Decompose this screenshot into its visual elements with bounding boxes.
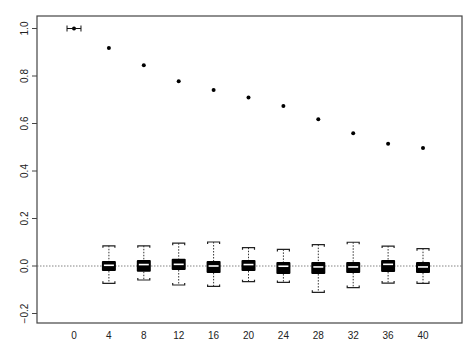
- data-point: [316, 117, 320, 121]
- y-axis: 1.00.80.60.40.20.0−0.2: [19, 21, 37, 323]
- boxplot: [207, 242, 221, 286]
- boxplot: [276, 249, 290, 282]
- data-point: [421, 146, 425, 150]
- box: [137, 260, 151, 272]
- y-tick-label: 1.0: [19, 21, 30, 35]
- y-tick-label: 0.0: [19, 259, 30, 273]
- data-point: [107, 46, 111, 50]
- boxplot: [102, 246, 116, 284]
- x-tick-label: 0: [71, 330, 77, 341]
- data-point: [142, 63, 146, 67]
- x-tick-label: 36: [383, 330, 395, 341]
- lower-cap: [312, 290, 324, 292]
- boxplot: [346, 242, 360, 287]
- x-tick-label: 40: [417, 330, 429, 341]
- box: [207, 261, 221, 273]
- x-axis: 0481216202428323640: [71, 330, 429, 341]
- y-tick-label: 0.4: [19, 164, 30, 178]
- data-point: [281, 104, 285, 108]
- boxplot: [137, 246, 151, 280]
- data-point: [386, 142, 390, 146]
- y-tick-label: 0.8: [19, 69, 30, 83]
- x-tick-label: 16: [208, 330, 220, 341]
- box: [381, 260, 395, 272]
- x-tick-label: 8: [141, 330, 147, 341]
- data-point: [177, 79, 181, 83]
- chart: 1.00.80.60.40.20.0−0.2 04812162024283236…: [0, 0, 476, 351]
- boxplot: [242, 248, 256, 282]
- x-tick-label: 12: [173, 330, 185, 341]
- y-tick-label: −0.2: [19, 303, 30, 323]
- boxplot: [172, 243, 186, 285]
- plot-frame: [37, 16, 462, 323]
- boxplot: [416, 249, 430, 284]
- x-tick-label: 20: [243, 330, 255, 341]
- data-point: [212, 88, 216, 92]
- boxplot-series: [102, 242, 430, 292]
- y-tick-label: 0.6: [19, 116, 30, 130]
- boxplot: [381, 246, 395, 283]
- box: [311, 262, 325, 274]
- boxplot: [311, 245, 325, 293]
- lower-cap: [103, 281, 115, 283]
- box: [276, 262, 290, 274]
- y-tick-label: 0.2: [19, 211, 30, 225]
- data-point: [247, 95, 251, 99]
- x-tick-label: 28: [313, 330, 325, 341]
- x-tick-label: 4: [106, 330, 112, 341]
- x-tick-label: 32: [348, 330, 360, 341]
- data-point: [351, 131, 355, 135]
- x-tick-label: 24: [278, 330, 290, 341]
- box: [242, 260, 256, 271]
- point-series: [67, 26, 425, 150]
